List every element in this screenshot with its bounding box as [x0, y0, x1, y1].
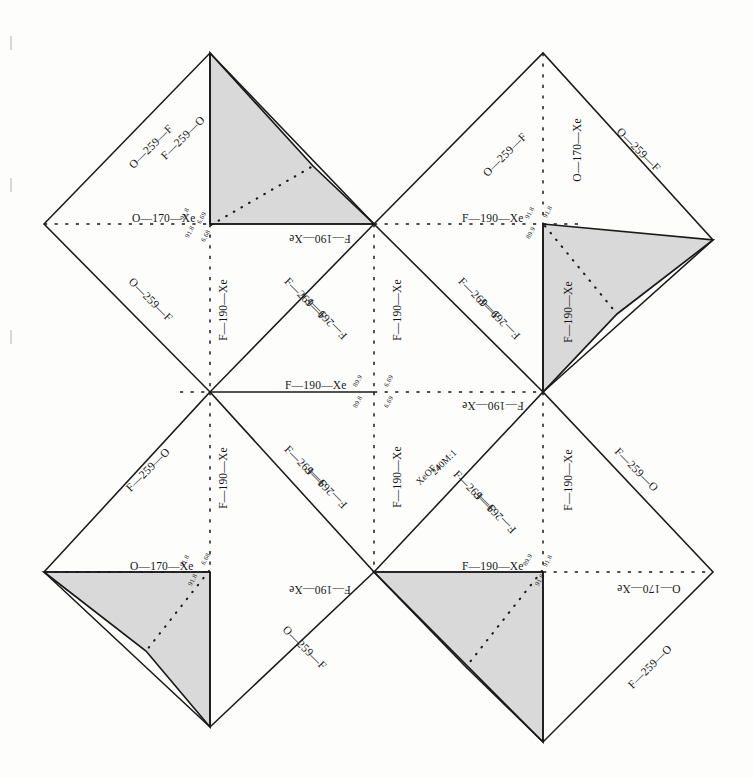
bond-label-br-mid-v: F—190—Xe [563, 449, 575, 511]
bond-label-tr-mid-h: F—190—Xe [462, 213, 524, 225]
bond-label-br-mid-h: O—170—Xe [617, 582, 681, 594]
net-diagram-svg [0, 0, 753, 778]
bond-label-ctr-mid-h: F—190—Xe [285, 380, 347, 392]
bond-label-ctr-right-h: F—190—Xe [462, 399, 524, 411]
bond-label-bl-mid-v: F—190—Xe [218, 447, 230, 509]
diagram-canvas: O—259—FF—259—OO—170—XeF—190—XeO—259—FF—1… [0, 0, 753, 778]
bond-label-tr-vert: O—170—Xe [572, 118, 584, 182]
bond-label-bl-base: F—190—Xe [289, 583, 351, 595]
bond-label-tr-mid-v: F—190—Xe [563, 281, 575, 343]
bond-label-tl-base: F—190—Xe [289, 232, 351, 244]
bond-label-ctr-mid-v: F—190—Xe [392, 279, 404, 341]
bond-label-ctr-mid-v2: F—190—Xe [392, 446, 404, 508]
bond-label-br-base: F—190—Xe [462, 561, 524, 573]
bond-label-tl-mid-v: F—190—Xe [218, 279, 230, 341]
